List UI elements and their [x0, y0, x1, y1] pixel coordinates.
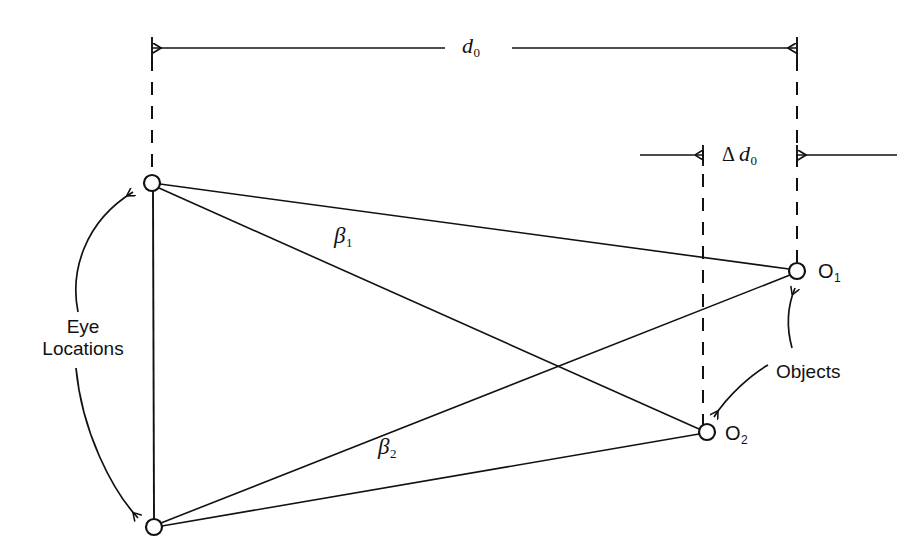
eye-locations-arrow-upper	[76, 192, 133, 312]
sight-line-eye-top-to-o2	[159, 188, 699, 429]
eye-locations-arrow-lower	[76, 368, 138, 518]
label-objects: Objects	[776, 361, 840, 383]
label-beta1-base: β	[334, 223, 345, 248]
label-o1: O1	[818, 260, 841, 285]
sight-lines-group	[159, 184, 790, 526]
label-beta1-subscript: 1	[346, 235, 353, 250]
stereo-geometry-diagram: d0 Δd0 β1 β2 Eye Locations Objects O1 O2	[0, 0, 897, 560]
diagram-canvas	[0, 0, 897, 560]
object-o1-node	[789, 263, 805, 279]
sight-line-eye-bottom-to-o2	[162, 434, 699, 526]
label-delta-d0-subscript: 0	[750, 153, 757, 168]
eye-top-node	[144, 175, 160, 191]
label-beta2-base: β	[378, 434, 389, 459]
label-d0-base: d	[462, 33, 473, 58]
objects-arrow-to-o1	[788, 288, 795, 348]
sight-line-eye-bottom-to-o1	[161, 275, 790, 523]
dimension-delta-d0	[640, 145, 897, 166]
label-beta2: β2	[378, 434, 396, 462]
label-o1-base: O	[818, 260, 834, 282]
objects-callout-arrows	[714, 288, 795, 417]
label-o2: O2	[725, 422, 748, 447]
label-eye-locations: Eye Locations	[24, 316, 142, 360]
label-d0: d0	[462, 33, 480, 61]
label-beta1: β1	[334, 223, 352, 251]
label-eye-locations-line2: Locations	[24, 338, 142, 360]
label-beta2-subscript: 2	[390, 446, 397, 461]
sight-line-eye-top-to-o1	[160, 184, 789, 269]
delta-icon: Δ	[722, 143, 735, 165]
object-o2-node	[699, 424, 715, 440]
label-delta-d0: Δd0	[722, 141, 757, 169]
label-o2-base: O	[725, 422, 741, 444]
label-o2-subscript: 2	[741, 433, 748, 447]
label-eye-locations-line1: Eye	[24, 316, 142, 338]
label-d0-subscript: 0	[474, 45, 481, 60]
label-delta-d0-base: d	[739, 141, 750, 166]
reference-lines-group	[152, 58, 797, 426]
objects-arrow-to-o2	[714, 365, 768, 417]
eye-bottom-node	[146, 519, 162, 535]
label-o1-subscript: 1	[834, 271, 841, 285]
interocular-baseline	[153, 191, 154, 519]
